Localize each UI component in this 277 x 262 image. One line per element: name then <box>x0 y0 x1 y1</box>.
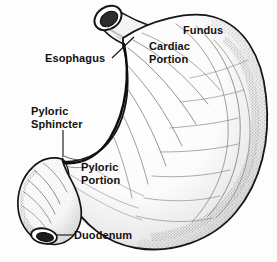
stomach-diagram-figure: Fundus Cardiac Portion Esophagus Pyloric… <box>0 0 277 262</box>
label-duodenum: Duodenum <box>74 229 132 242</box>
label-fundus: Fundus <box>183 24 223 37</box>
label-esophagus: Esophagus <box>45 52 105 65</box>
stomach-illustration-svg <box>0 0 277 262</box>
label-pyloric-portion: Pyloric Portion <box>81 161 120 186</box>
label-pyloric-sphincter: Pyloric Sphincter <box>31 105 83 130</box>
label-cardiac-portion: Cardiac Portion <box>149 40 190 65</box>
